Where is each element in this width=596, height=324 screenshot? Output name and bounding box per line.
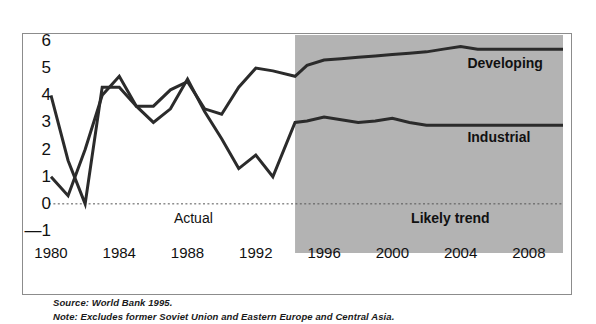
y-tick-2: 2 (42, 141, 51, 158)
x-tick-2008: 2008 (512, 245, 545, 260)
x-tick-2004: 2004 (444, 245, 477, 260)
y-tick-neg1: —1 (25, 222, 51, 239)
x-tick-1980: 1980 (34, 245, 67, 260)
y-tick-1: 1 (42, 168, 51, 185)
x-tick-2000: 2000 (376, 245, 409, 260)
figure-footnotes: Source: World Bank 1995. Note: Excludes … (53, 296, 394, 324)
x-tick-1984: 1984 (103, 245, 136, 260)
x-tick-1996: 1996 (307, 245, 340, 260)
series-label-industrial: Industrial (467, 130, 530, 144)
y-tick-4: 4 (42, 86, 51, 103)
x-tick-1988: 1988 (171, 245, 204, 260)
y-tick-5: 5 (42, 59, 51, 76)
y-tick-3: 3 (42, 113, 51, 130)
x-tick-1992: 1992 (239, 245, 272, 260)
chart-plot-area: 6543210—1 198019841988199219962000200420… (23, 34, 573, 296)
y-tick-6: 6 (42, 32, 51, 49)
figure-panel: 6543210—1 198019841988199219962000200420… (22, 33, 572, 295)
y-tick-0: 0 (42, 195, 51, 212)
excludes-note: Note: Excludes former Soviet Union and E… (53, 310, 394, 324)
source-note: Source: World Bank 1995. (53, 296, 394, 310)
region-label-actual: Actual (174, 211, 213, 225)
region-label-likely-trend: Likely trend (411, 211, 490, 225)
series-label-developing: Developing (467, 56, 542, 70)
